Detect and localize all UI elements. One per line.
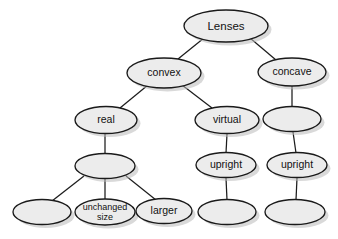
tree-node-virtual[interactable]: virtual (195, 107, 263, 138)
tree-edge-upright-c-to-bottom-c (296, 178, 297, 200)
tree-node-convex[interactable]: convex (127, 58, 205, 92)
node-label-virtual: virtual (213, 113, 241, 125)
tree-node-real-c1[interactable] (75, 154, 139, 183)
node-ellipse-bottom-v[interactable] (198, 200, 256, 225)
tree-node-lenses[interactable]: Lenses (184, 10, 272, 46)
node-label-larger: larger (151, 204, 178, 216)
tree-edge-upright-v-to-bottom-v (226, 178, 227, 200)
tree-node-upright-c[interactable]: upright (267, 153, 331, 182)
node-label-concave: concave (272, 65, 311, 77)
tree-node-bottom-1[interactable] (13, 200, 75, 229)
tree-edge-real-c1-to-larger (126, 176, 156, 200)
node-label-unchanged: unchanged (83, 202, 128, 212)
tree-node-concave-c1[interactable] (263, 107, 325, 136)
tree-edge-lenses-to-convex (178, 38, 204, 59)
node-label-real: real (97, 113, 115, 125)
node-label2-unchanged: size (97, 212, 113, 222)
node-label-convex: convex (147, 66, 181, 78)
tree-edge-real-c1-to-bottom-1 (52, 176, 84, 201)
tree-node-bottom-v[interactable] (198, 200, 260, 229)
nodes-layer: Lensesconvexconcaverealvirtualuprightupr… (13, 10, 331, 229)
node-ellipse-bottom-1[interactable] (13, 200, 71, 225)
node-label-upright-v: upright (210, 158, 242, 170)
node-ellipse-bottom-c[interactable] (265, 200, 325, 225)
tree-node-unchanged[interactable]: unchangedsize (75, 199, 139, 229)
tree-node-upright-v[interactable]: upright (196, 153, 260, 182)
tree-node-larger[interactable]: larger (136, 199, 196, 228)
node-ellipse-concave-c1[interactable] (263, 107, 321, 132)
node-label-upright-c: upright (281, 158, 313, 170)
node-label-lenses: Lenses (207, 20, 244, 32)
tree-edge-concave-c1-to-upright-c (293, 132, 296, 153)
tree-node-real[interactable]: real (75, 107, 141, 138)
lenses-tree-diagram: Lensesconvexconcaverealvirtualuprightupr… (0, 0, 338, 239)
tree-node-concave[interactable]: concave (258, 58, 330, 90)
tree-edge-convex-to-real (120, 85, 148, 108)
tree-svg-canvas: Lensesconvexconcaverealvirtualuprightupr… (0, 0, 338, 239)
node-ellipse-real-c1[interactable] (75, 154, 135, 179)
tree-node-bottom-c[interactable] (265, 200, 329, 229)
